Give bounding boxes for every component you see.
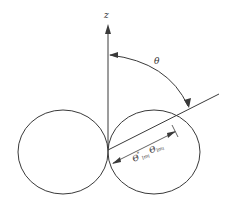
z-axis-label: z — [103, 10, 109, 20]
z-axis — [105, 24, 111, 148]
arrow-up-icon — [105, 24, 111, 34]
arrow-left-icon — [109, 52, 118, 58]
direction-ray — [108, 94, 219, 150]
theta-label: θ — [154, 56, 160, 66]
svg-text:Θ*lmlΘlml: Θ*lmlΘlml — [130, 139, 166, 166]
radius-label: Θ*lmlΘlml — [130, 139, 166, 166]
arrow-right-icon — [167, 131, 176, 138]
diagram-canvas: z θ Θ*lmlΘlml — [0, 0, 232, 207]
left-lobe — [18, 110, 108, 194]
arrow-left-icon — [112, 157, 121, 164]
theta-arc — [110, 55, 188, 106]
